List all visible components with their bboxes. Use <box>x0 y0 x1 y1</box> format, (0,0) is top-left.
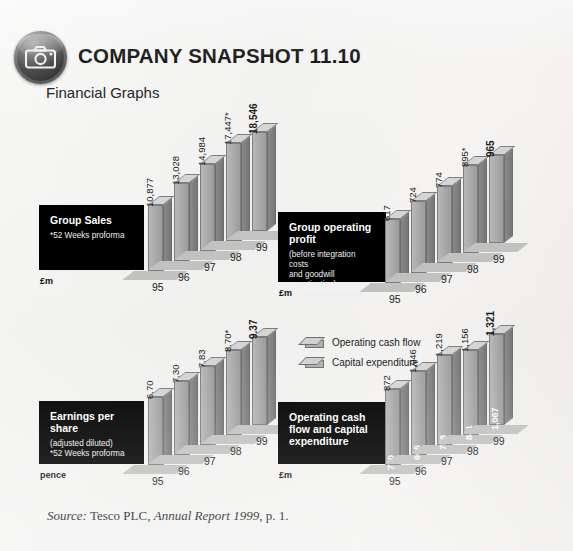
bar-value-label: 617 <box>381 205 392 221</box>
chart-label-panel: Earnings per share (adjusted diluted) *5… <box>39 401 144 464</box>
chart-note-line: (adjusted diluted) <box>50 439 113 448</box>
chart-note: *52 Weeks proforma <box>50 231 134 241</box>
bar-value-label: 965 <box>485 140 496 157</box>
camera-icon <box>14 31 67 84</box>
bar-front-face <box>200 366 215 445</box>
bar-value-label: 7.83 <box>196 350 207 369</box>
bar-value-label: 1,321 <box>485 311 496 336</box>
legend-label: Operating cash flow <box>332 337 420 348</box>
bar-front-face <box>437 186 452 263</box>
bar-value-label: 1,156 <box>459 328 470 352</box>
bar-value-label: 8.70* <box>222 330 233 352</box>
bar-side-face <box>241 136 250 241</box>
bar-side-face <box>189 176 198 261</box>
bar-front-face <box>463 165 478 253</box>
bar-category-label: 99 <box>493 253 505 265</box>
chart-unit-label: £m <box>40 276 53 286</box>
bar-category-label: 96 <box>178 465 190 477</box>
chart-note-line: (before integration costs <box>289 250 355 269</box>
page-title: COMPANY SNAPSHOT 11.10 <box>78 44 361 68</box>
bar-side-face <box>452 348 461 445</box>
bar-side-face <box>215 157 224 251</box>
bar-category-label: 95 <box>389 475 401 487</box>
bar-category-label: 96 <box>178 271 190 283</box>
bar-front-face <box>174 183 189 261</box>
source-prefix: Source: <box>47 508 87 523</box>
bar-front-face <box>226 350 241 435</box>
bar-category-label: 97 <box>204 455 216 467</box>
bar-base-shadow <box>463 243 529 252</box>
source-page: , p. 1. <box>259 508 288 523</box>
bar-value-label: 17,447* <box>222 112 233 145</box>
chart-note-line: and goodwill amortisation) <box>289 270 336 289</box>
bar-category-label: 96 <box>415 465 427 477</box>
bar-category-label: 97 <box>441 273 453 285</box>
bar-value-label: 895* <box>459 147 470 167</box>
chart-note-line: *52 Weeks proforma <box>50 449 124 458</box>
bar-side-face <box>241 343 250 435</box>
bar-front-face <box>200 164 215 251</box>
camera-glyph <box>25 45 56 69</box>
page-subtitle: Financial Graphs <box>46 84 159 101</box>
bar-side-face <box>478 158 487 253</box>
bar-category-label: 98 <box>230 445 242 457</box>
bar-value-label: 14,984 <box>196 137 207 166</box>
chart-note: (adjusted diluted) *52 Weeks proforma <box>50 439 134 459</box>
bar-side-face <box>426 364 435 455</box>
bar-side-face <box>504 148 513 243</box>
bar-front-face <box>252 132 267 231</box>
bar-side-face <box>163 390 172 465</box>
bar-value-label: 872 <box>381 375 392 391</box>
bar-value-label: 6.70 <box>144 381 155 400</box>
bar-category-label: 98 <box>230 251 242 263</box>
bar-side-face <box>215 359 224 445</box>
chart-label-panel: Operating cash flow and capital expendit… <box>278 402 386 464</box>
chart-title: Earnings per share <box>50 410 134 434</box>
bar-value-label: 1,219 <box>433 333 444 357</box>
bar-front-face <box>463 350 478 435</box>
bar-category-label: 95 <box>389 293 401 305</box>
bar-value-label: 13,028 <box>170 156 181 185</box>
bar-value-label: 1,046 <box>407 349 418 373</box>
bar-side-face <box>452 179 461 263</box>
legend-swatch-capital-expenditure <box>305 360 324 368</box>
bar-category-label: 96 <box>415 283 427 295</box>
bar-side-face <box>267 125 276 231</box>
bar-category-label: 99 <box>493 435 505 447</box>
chart-label-panel: Group Sales *52 Weeks proforma <box>39 205 144 270</box>
legend-swatch-operating-cash-flow <box>305 340 324 348</box>
bar-value-label: 774 <box>433 172 444 188</box>
bar-side-face <box>426 194 435 273</box>
source-citation: Source: Tesco PLC, Annual Report 1999, p… <box>47 508 288 524</box>
bar-value-label: 18,546 <box>248 103 259 134</box>
chart-unit-label: £m <box>279 470 292 480</box>
bar-front-face <box>252 337 267 425</box>
bar-front-face <box>411 371 426 455</box>
bar-secondary-value-label: 1,067 <box>490 407 500 430</box>
bar-value-label: 7.30 <box>170 365 181 384</box>
bar-side-face <box>189 374 198 455</box>
bar-value-label: 9.37 <box>248 320 259 339</box>
page-canvas: COMPANY SNAPSHOT 11.10 Financial Graphs … <box>0 0 573 551</box>
chart-note: (before integration costs and goodwill a… <box>289 250 376 300</box>
chart-unit-label: £m <box>279 288 292 298</box>
bar-category-label: 95 <box>152 475 164 487</box>
bar-category-label: 98 <box>467 263 479 275</box>
source-publisher: Tesco PLC, <box>90 508 150 523</box>
bar-category-label: 95 <box>152 281 164 293</box>
source-document: Annual Report 1999 <box>154 508 259 523</box>
bar-side-face <box>267 330 276 425</box>
bar-side-face <box>400 382 409 465</box>
chart-label-panel: Group operating profit (before integrati… <box>278 212 386 282</box>
bar-front-face <box>174 381 189 455</box>
chart-title: Group operating profit <box>289 221 376 245</box>
bar-side-face <box>504 327 513 425</box>
bar-side-face <box>478 343 487 435</box>
bar-front-face <box>489 155 504 243</box>
bar-category-label: 97 <box>204 261 216 273</box>
chart-note-line: *52 weeks proforma <box>289 290 362 299</box>
chart-unit-label: pence <box>40 470 66 480</box>
bar-front-face <box>437 355 452 445</box>
bar-front-face <box>385 389 400 465</box>
chart-title: Operating cash flow and capital expendit… <box>289 411 376 447</box>
